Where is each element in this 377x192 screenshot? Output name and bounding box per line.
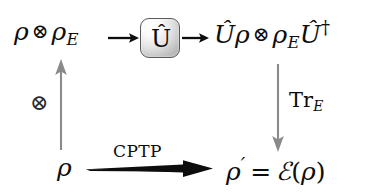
unitary-operator-box[interactable]: Û (140, 18, 180, 58)
evolved-u-hat: Û (214, 20, 235, 49)
node-reduced-input: ρ (57, 155, 72, 180)
node-input-state: ρ⊗ρE (14, 19, 79, 48)
close-paren: ) (316, 157, 326, 186)
arrow-partial-trace (272, 64, 284, 152)
evolved-env-subscript: E (288, 33, 300, 52)
arrow-cptp (86, 160, 213, 177)
input-env-subscript: E (67, 30, 79, 49)
evolved-rho: ρ (235, 20, 250, 49)
node-evolved-state: Ûρ⊗ρEÛ† (214, 19, 330, 51)
quantum-channel-diagram: ρ⊗ρE Û Ûρ⊗ρEÛ† ⊗ TrE CPTP ρ ρ′=ℰ(ρ) (0, 0, 377, 192)
input-rho: ρ (14, 17, 29, 46)
arrow-tensor-up (55, 59, 67, 150)
channel-symbol: ℰ (276, 157, 291, 186)
arrow-out-of-unitary (182, 33, 209, 43)
trace-text: Tr (289, 88, 313, 112)
partial-trace-label: TrE (289, 90, 323, 114)
input-rho-env: ρ (51, 17, 66, 46)
equals-sign: = (250, 157, 271, 186)
evolved-u-hat-dagger: Û (300, 20, 321, 49)
tensor-product-icon: ⊗ (32, 19, 49, 43)
prime-icon: ′ (241, 153, 246, 177)
unitary-operator-label: Û (141, 19, 181, 59)
arrow-into-unitary (108, 33, 139, 43)
trace-subscript: E (313, 98, 323, 114)
open-paren: ( (291, 157, 301, 186)
tensor-product-icon: ⊗ (30, 92, 48, 114)
dagger-icon: † (321, 17, 330, 38)
cptp-label: CPTP (113, 143, 162, 160)
output-arg-rho: ρ (301, 157, 316, 186)
cptp-text: CPTP (113, 141, 162, 161)
node-output-state: ρ′=ℰ(ρ) (226, 155, 325, 184)
output-rho: ρ (226, 157, 241, 186)
evolved-rho-env: ρ (273, 20, 288, 49)
tensor-product-icon: ⊗ (253, 22, 270, 46)
reduced-input-rho: ρ (57, 153, 72, 182)
